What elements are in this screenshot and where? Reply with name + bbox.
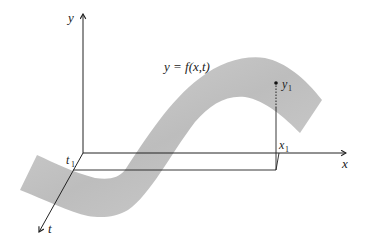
t1-label: t 1 — [66, 153, 75, 169]
surface-diagram: y x t y = f(x,t) t 1 x 1 y 1 — [0, 0, 367, 247]
t-axis-label: t — [48, 221, 52, 236]
svg-text:x: x — [278, 138, 285, 152]
surface-ribbon — [20, 57, 322, 217]
y-axis-label: y — [66, 10, 74, 25]
svg-text:t: t — [66, 153, 70, 167]
x-axis-label: x — [341, 156, 348, 171]
x1-connector — [276, 153, 279, 170]
svg-text:y: y — [281, 77, 288, 91]
svg-text:1: 1 — [288, 84, 292, 93]
x1-label: x 1 — [278, 138, 289, 154]
svg-text:1: 1 — [71, 160, 75, 169]
y1-point — [274, 81, 278, 85]
svg-text:1: 1 — [285, 145, 289, 154]
surface-equation-label: y = f(x,t) — [162, 59, 210, 74]
